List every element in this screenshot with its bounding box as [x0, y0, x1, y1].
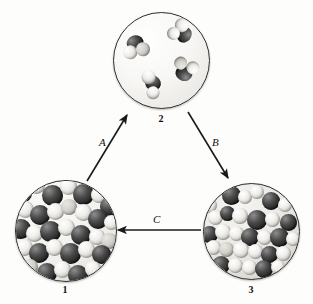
liquid-atom — [276, 246, 291, 261]
arrow-b — [188, 112, 228, 178]
liquid-atom — [262, 192, 280, 210]
liquid-atom — [228, 258, 243, 273]
gas-molecule-2 — [160, 13, 198, 51]
liquid-atom — [233, 242, 249, 258]
liquid-atom — [271, 260, 285, 274]
panel-label-2: 2 — [151, 113, 171, 124]
liquid-atom — [278, 198, 292, 212]
arrow-label-a: A — [99, 136, 106, 148]
lattice-atom — [104, 215, 116, 230]
panel-liquid[interactable] — [203, 183, 300, 280]
panel-liquid-contents — [204, 184, 299, 279]
liquid-atom — [232, 208, 248, 224]
liquid-atom — [265, 212, 280, 227]
arrow-a — [87, 115, 127, 181]
lattice-atom — [85, 261, 101, 277]
liquid-atom — [247, 210, 267, 230]
panel-solid-contents — [16, 181, 116, 281]
gas-molecule-4 — [132, 67, 170, 104]
scan-artifact-text: · · · · · · · · · · · · · · — [0, 0, 313, 6]
liquid-atom — [219, 242, 234, 257]
lattice-atom — [22, 259, 38, 275]
figure-canvas: · · · · · · · · · · · · · · — [0, 0, 313, 304]
panel-label-1: 1 — [55, 284, 75, 295]
liquid-atom — [286, 232, 299, 246]
arrow-label-c: C — [153, 213, 160, 225]
arrow-label-b: B — [212, 136, 219, 148]
gas-molecule-3 — [168, 52, 202, 85]
panel-solid[interactable] — [15, 180, 117, 282]
panel-gas-contents — [114, 13, 209, 108]
gas-molecule-1 — [119, 31, 155, 63]
panel-label-3: 3 — [241, 284, 261, 295]
panel-gas[interactable] — [113, 12, 210, 109]
